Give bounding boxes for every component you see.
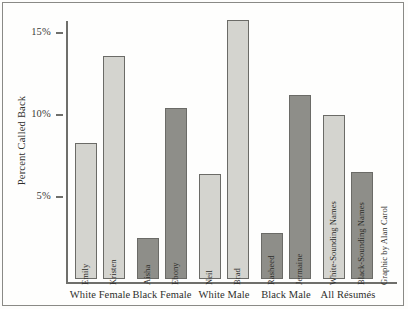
- bar: [165, 108, 187, 279]
- credit-annotation: Graphic by Alan Carol: [379, 206, 389, 285]
- bar-label: Rasheed: [266, 256, 276, 286]
- bar-label: Black-Sounding Names: [356, 202, 366, 285]
- chart-canvas: Percent Called Back 15%10%5% EmilyKriste…: [0, 0, 408, 309]
- group-label: All Résumés: [298, 289, 398, 300]
- y-tick-mark: [56, 114, 63, 116]
- y-tick-label: 10%: [3, 108, 51, 119]
- y-tick-mark: [56, 32, 63, 34]
- bar: [199, 174, 221, 279]
- y-tick-label: 5%: [3, 190, 51, 201]
- bar-label: Emily: [80, 264, 90, 285]
- bar-label: White-Sounding Names: [328, 201, 338, 285]
- bar-label: Ebony: [170, 262, 180, 285]
- figure-frame: Percent Called Back 15%10%5% EmilyKriste…: [2, 2, 404, 306]
- bar: [227, 20, 249, 279]
- bar-label: Brad: [232, 268, 242, 285]
- bar-label: Jermaine: [294, 254, 304, 285]
- bar: [289, 95, 311, 279]
- y-tick-label: 15%: [3, 26, 51, 37]
- bar-label: Aisha: [142, 265, 152, 285]
- bar: [103, 56, 125, 279]
- y-tick-mark: [56, 196, 63, 198]
- bar-series: EmilyKristenAishaEbonyNeilBradRasheedJer…: [63, 18, 394, 279]
- bar-label: Kristen: [108, 259, 118, 285]
- bar: [75, 143, 97, 279]
- bar-label: Neil: [204, 270, 214, 285]
